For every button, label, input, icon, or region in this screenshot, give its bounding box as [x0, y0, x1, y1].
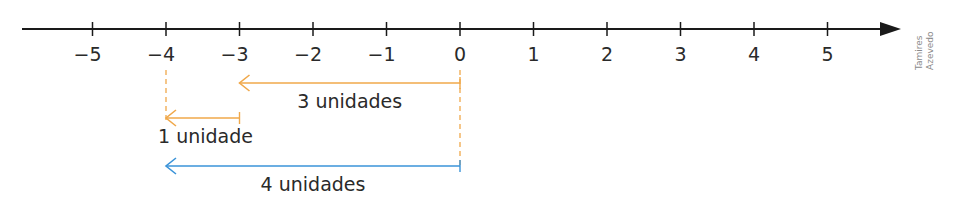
number-line-diagram: −5−4−3−2−1012345 3 unidades1 unidade4 un… [0, 0, 957, 203]
tick-label: 0 [454, 43, 466, 65]
tick-label: −1 [367, 43, 395, 65]
tick-label: 3 [674, 43, 686, 65]
tick-label: −3 [220, 43, 248, 65]
tick-label: 1 [527, 43, 539, 65]
tick-label: 5 [821, 43, 833, 65]
tick-label: −5 [73, 43, 101, 65]
segment-label: 4 unidades [261, 173, 366, 195]
tick-label: −4 [147, 43, 175, 65]
credit-line-2: Azevedo [925, 31, 935, 70]
tick-label: 4 [748, 43, 760, 65]
tick-label: 2 [601, 43, 613, 65]
axis-arrowhead-icon [880, 22, 901, 36]
segment-label: 3 unidades [297, 90, 402, 112]
credit-line-1: Tamires [914, 35, 924, 71]
credit: Tamires Azevedo [914, 31, 935, 71]
tick-label: −2 [294, 43, 322, 65]
segment-label: 1 unidade [158, 125, 253, 147]
